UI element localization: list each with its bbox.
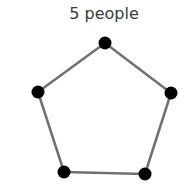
person-node bbox=[99, 37, 112, 50]
graph-edge bbox=[145, 93, 171, 174]
person-node bbox=[139, 168, 152, 181]
graph-edge bbox=[38, 92, 64, 172]
person-node bbox=[32, 86, 45, 99]
graph-edge bbox=[64, 172, 145, 174]
graph-edge bbox=[38, 43, 105, 92]
person-node bbox=[165, 87, 178, 100]
person-node bbox=[58, 166, 71, 179]
graph-edge bbox=[105, 43, 171, 93]
pentagon-graph bbox=[0, 0, 195, 190]
